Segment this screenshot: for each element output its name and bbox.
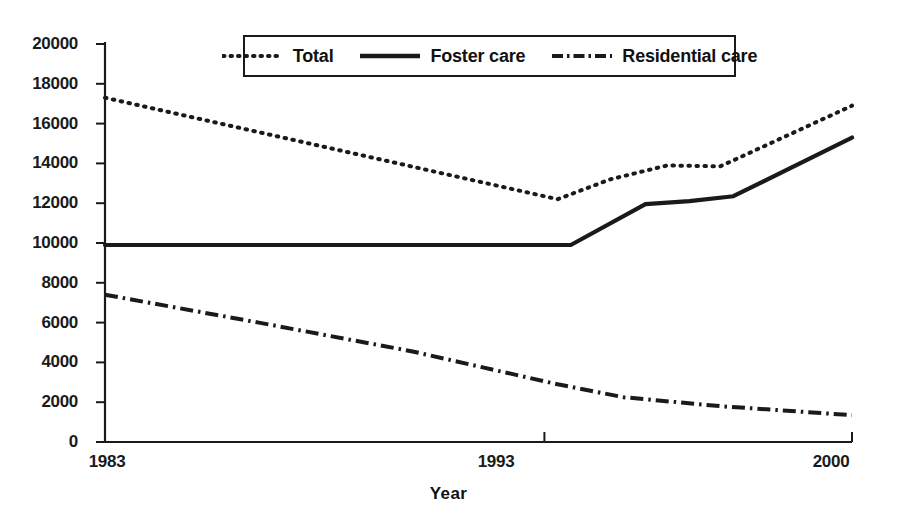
x-axis-title: Year: [0, 484, 897, 504]
legend-label-total: Total: [293, 46, 334, 67]
legend-label-foster-care: Foster care: [430, 46, 525, 67]
legend: Total Foster care Residential care: [243, 35, 736, 77]
legend-entry-foster-care: Foster care: [359, 46, 525, 67]
series-line-total: [105, 98, 852, 199]
legend-label-residential-care: Residential care: [622, 46, 757, 67]
series-line-residential-care: [105, 295, 852, 415]
line-chart: 0 2000 4000 6000 8000 10000 12000 14000 …: [0, 0, 897, 531]
legend-swatch-solid-icon: [359, 49, 421, 63]
legend-swatch-dash-dot-icon: [551, 49, 613, 63]
plot-area: [0, 0, 897, 531]
x-axis-ticks: [105, 432, 852, 442]
legend-entry-total: Total: [222, 46, 334, 67]
series-line-foster-care: [105, 138, 852, 245]
legend-swatch-dotted-icon: [222, 49, 284, 63]
legend-entry-residential-care: Residential care: [551, 46, 757, 67]
y-axis-ticks: [96, 44, 105, 442]
